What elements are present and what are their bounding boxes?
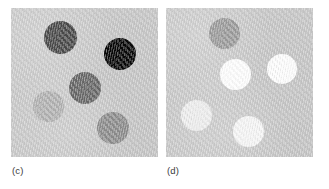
particle-c-3 (69, 72, 101, 104)
particle-d-2 (220, 59, 251, 90)
particle-d-5-texture (233, 116, 264, 147)
panel-d-image (166, 8, 313, 157)
particle-d-5 (233, 116, 264, 147)
panel-c (11, 8, 158, 157)
panel-d-label: (d) (167, 166, 179, 176)
panel-d (166, 8, 313, 157)
particle-d-4 (181, 100, 212, 131)
particle-c-5 (97, 112, 129, 144)
particle-d-1 (209, 18, 240, 49)
particle-d-2-texture (220, 59, 251, 90)
particle-c-1-texture (44, 21, 77, 54)
panel-c-label: (c) (12, 166, 24, 176)
particle-d-3 (267, 54, 297, 84)
particle-c-4-texture (33, 91, 64, 122)
figure-root: (c)(d) (0, 0, 329, 189)
particle-c-2 (104, 38, 136, 70)
particle-c-3-texture (69, 72, 101, 104)
particle-d-1-texture (209, 18, 240, 49)
particle-d-3-texture (267, 54, 297, 84)
particle-c-4 (33, 91, 64, 122)
panel-c-image (11, 8, 158, 157)
particle-c-2-texture (104, 38, 136, 70)
particle-c-1 (44, 21, 77, 54)
particle-c-5-texture (97, 112, 129, 144)
particle-d-4-texture (181, 100, 212, 131)
